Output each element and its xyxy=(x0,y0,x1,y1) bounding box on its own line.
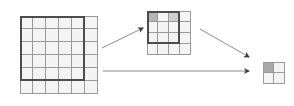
grid-cell xyxy=(85,42,98,55)
grid-cell xyxy=(46,29,59,42)
grid-cell xyxy=(20,16,33,29)
grid-cell xyxy=(147,33,158,44)
grid-cell xyxy=(180,11,191,22)
grid-cell xyxy=(72,16,85,29)
grid-cell xyxy=(59,68,72,81)
grid-cell xyxy=(263,62,274,73)
grid-cell xyxy=(33,55,46,68)
grid-cell xyxy=(46,68,59,81)
grid-cell xyxy=(72,81,85,94)
grid-cell xyxy=(147,11,158,22)
grid-cell xyxy=(46,16,59,29)
grid-cell xyxy=(59,16,72,29)
grid-cell xyxy=(85,29,98,42)
grid-cell xyxy=(20,81,33,94)
grid-cell xyxy=(33,16,46,29)
grid-cell xyxy=(33,81,46,94)
grid-cell xyxy=(158,44,169,55)
grid-cell xyxy=(59,29,72,42)
grid-cell xyxy=(180,22,191,33)
medium-grid xyxy=(147,11,191,55)
diagram-canvas xyxy=(0,0,294,106)
grid-cell xyxy=(72,42,85,55)
large-grid xyxy=(20,16,98,94)
grid-cell xyxy=(33,29,46,42)
grid-cell xyxy=(20,42,33,55)
grid-cell xyxy=(180,33,191,44)
grid-cell xyxy=(169,22,180,33)
grid-cell xyxy=(158,22,169,33)
grid-cell xyxy=(169,44,180,55)
grid-cell xyxy=(59,55,72,68)
grid-cell xyxy=(158,11,169,22)
grid-cell xyxy=(20,29,33,42)
grid-cell xyxy=(20,68,33,81)
small-grid xyxy=(263,62,285,84)
grid-cell xyxy=(274,73,285,84)
grid-cell xyxy=(72,29,85,42)
grid-cell xyxy=(169,11,180,22)
grid-cell xyxy=(72,68,85,81)
grid-cell xyxy=(33,42,46,55)
grid-cell xyxy=(85,16,98,29)
grid-cell xyxy=(147,22,158,33)
grid-cell xyxy=(158,33,169,44)
arrow-medium-to-small xyxy=(200,29,249,57)
grid-cell xyxy=(85,81,98,94)
grid-cell xyxy=(46,55,59,68)
grid-cell xyxy=(85,68,98,81)
grid-cell xyxy=(72,55,85,68)
grid-cell xyxy=(180,44,191,55)
grid-cell xyxy=(147,44,158,55)
arrow-large-to-medium xyxy=(102,28,143,48)
grid-cell xyxy=(263,73,274,84)
grid-cell xyxy=(33,68,46,81)
grid-cell xyxy=(59,42,72,55)
grid-cell xyxy=(20,55,33,68)
grid-cell xyxy=(59,81,72,94)
grid-cell xyxy=(169,33,180,44)
grid-cell xyxy=(274,62,285,73)
grid-cell xyxy=(46,42,59,55)
grid-cell xyxy=(85,55,98,68)
grid-cell xyxy=(46,81,59,94)
